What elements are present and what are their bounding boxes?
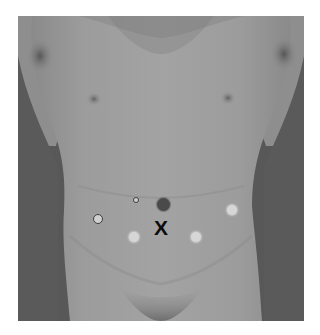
port-marker-left-lateral-outlined: [93, 214, 103, 224]
left-nipple: [86, 92, 102, 106]
left-armpit: [26, 38, 54, 74]
port-marker-dark: [157, 198, 170, 211]
right-nipple: [220, 91, 236, 105]
torso-photo: [18, 16, 304, 321]
x-mark-label: X: [151, 217, 171, 238]
port-marker-small-outlined: [133, 197, 139, 203]
right-armpit: [270, 36, 298, 72]
port-marker-right-lateral-light: [227, 205, 237, 215]
torso-skin: [31, 16, 290, 321]
torso-illustration: [18, 16, 304, 321]
port-marker-left-lower-light: [129, 232, 139, 242]
port-marker-right-lower-light: [191, 232, 201, 242]
